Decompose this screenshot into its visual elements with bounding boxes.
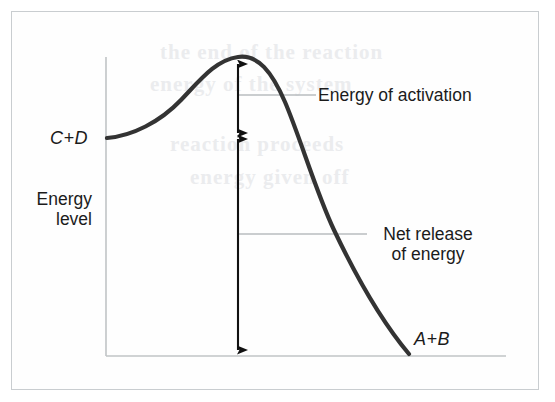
reactants-label: C+D — [50, 128, 88, 149]
net-release-label-line-1: Net release — [383, 224, 473, 244]
y-axis-title-line-2: level — [56, 209, 92, 229]
net-release-label: Net release of energy — [369, 224, 487, 264]
y-axis-title: Energy level — [14, 189, 92, 229]
net-release-label-line-2: of energy — [392, 244, 465, 264]
figure-page: the end of the reaction energy of the sy… — [0, 0, 555, 402]
activation-label: Energy of activation — [318, 85, 472, 105]
y-axis-title-line-1: Energy — [37, 189, 92, 209]
products-label: A+B — [414, 329, 450, 350]
